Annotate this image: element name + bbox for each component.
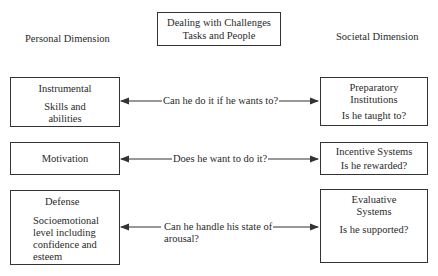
evaluative-body: Is he supported? [321,224,427,236]
evaluative-title-2: Systems [321,206,427,218]
title-line-1: Dealing with Challenges [158,17,280,29]
defense-body-2: level including [33,227,96,239]
defense-body-4: esteem [33,251,62,263]
defense-title: Defense [45,196,79,208]
preparatory-body: Is he taught to? [321,110,427,122]
instrumental-title: Instrumental [11,83,119,95]
title-line-2: Tasks and People [158,30,280,42]
motivation-title: Motivation [11,153,119,165]
motivation-box: Motivation [10,142,120,175]
question-defense-line-2: arousal? [163,233,200,245]
question-defense-line-1: Can he handle his state of [163,221,273,233]
societal-dimension-header: Societal Dimension [336,31,419,43]
preparatory-title-2: Institutions [321,94,427,106]
incentive-body: Is he rewarded? [321,160,427,172]
incentive-title: Incentive Systems [321,146,427,158]
defense-box: Defense Socioemotional level including c… [10,190,120,265]
instrumental-box: Instrumental Skills and abilities [10,77,120,127]
evaluative-systems-box: Evaluative Systems Is he supported? [320,189,428,263]
defense-body-3: confidence and [33,239,97,251]
question-motivation: Does he want to do it? [172,153,268,165]
defense-body-1: Socioemotional [33,215,99,227]
instrumental-body-1: Skills and [11,101,119,113]
title-box: Dealing with Challenges Tasks and People [157,12,281,46]
personal-dimension-header: Personal Dimension [25,33,110,45]
preparatory-title-1: Preparatory [321,82,427,94]
incentive-systems-box: Incentive Systems Is he rewarded? [320,142,428,175]
instrumental-body-2: abilities [11,113,119,125]
question-instrumental: Can he do it if he wants to? [162,95,279,107]
evaluative-title-1: Evaluative [321,194,427,206]
preparatory-institutions-box: Preparatory Institutions Is he taught to… [320,77,428,126]
